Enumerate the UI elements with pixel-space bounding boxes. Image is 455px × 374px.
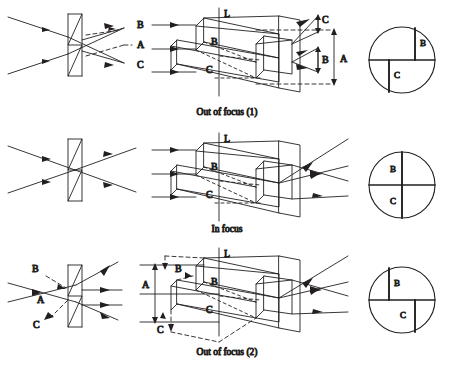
detector-label-c-1: C — [394, 70, 400, 80]
detector-2 — [369, 152, 435, 218]
prism-label-b-1: B — [211, 36, 218, 47]
prism-label-b-3: B — [211, 276, 218, 287]
caption-row-1: Out of focus (1) — [197, 107, 258, 118]
detector-label-c-3: C — [400, 310, 406, 320]
dimension-label-a-1: A — [340, 53, 348, 64]
caption-row-2: In focus — [212, 224, 243, 234]
detector-label-c-2: C — [390, 196, 396, 206]
dimension-label-b-3: B — [175, 263, 182, 274]
detector-label-b-2: B — [390, 164, 396, 174]
ray-label-c-1: C — [137, 59, 144, 70]
prism-label-c-1: C — [206, 64, 213, 75]
prism-label-c-2: C — [206, 189, 213, 200]
ray-label-a-3: A — [37, 294, 45, 305]
prism-label-b-2: B — [211, 161, 218, 172]
diagram-canvas: B A C — [0, 0, 455, 374]
dimension-label-b-1: B — [322, 54, 329, 65]
prism-label-l-3: L — [224, 248, 230, 259]
dimension-label-a-3: A — [142, 279, 150, 290]
ray-label-a-1: A — [137, 39, 145, 50]
prism-label-c-3: C — [206, 304, 213, 315]
detector-label-b-3: B — [394, 278, 400, 288]
detector-label-b-1: B — [420, 38, 426, 48]
dimension-label-c-3: C — [157, 324, 164, 335]
ray-label-b-1: B — [137, 19, 144, 30]
prism-label-l-1: L — [224, 8, 230, 19]
optical-focus-diagram: B A C — [0, 0, 455, 374]
caption-row-3: Out of focus (2) — [197, 347, 258, 358]
ray-label-c-3: C — [33, 319, 40, 330]
dimension-label-c-1: C — [322, 14, 329, 25]
prism-label-l-2: L — [224, 133, 230, 144]
ray-label-b-3: B — [32, 263, 39, 274]
